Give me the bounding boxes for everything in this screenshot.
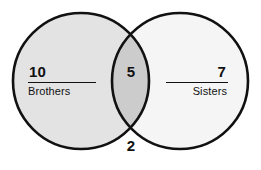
brothers-count: 10 [26,64,98,82]
outside-count: 2 [112,138,150,153]
sisters-underline [166,82,228,83]
venn-label-outside: 2 [112,138,150,153]
brothers-underline [28,82,96,83]
venn-label-sisters: 7 Sisters [164,64,230,97]
brothers-label: Brothers [26,86,98,97]
venn-label-intersection: 5 [112,64,150,79]
sisters-count: 7 [164,64,230,82]
venn-diagram: 10 Brothers 5 7 Sisters 2 [0,0,261,170]
venn-label-brothers: 10 Brothers [26,64,98,97]
sisters-label: Sisters [164,86,230,97]
intersection-count: 5 [112,64,150,79]
